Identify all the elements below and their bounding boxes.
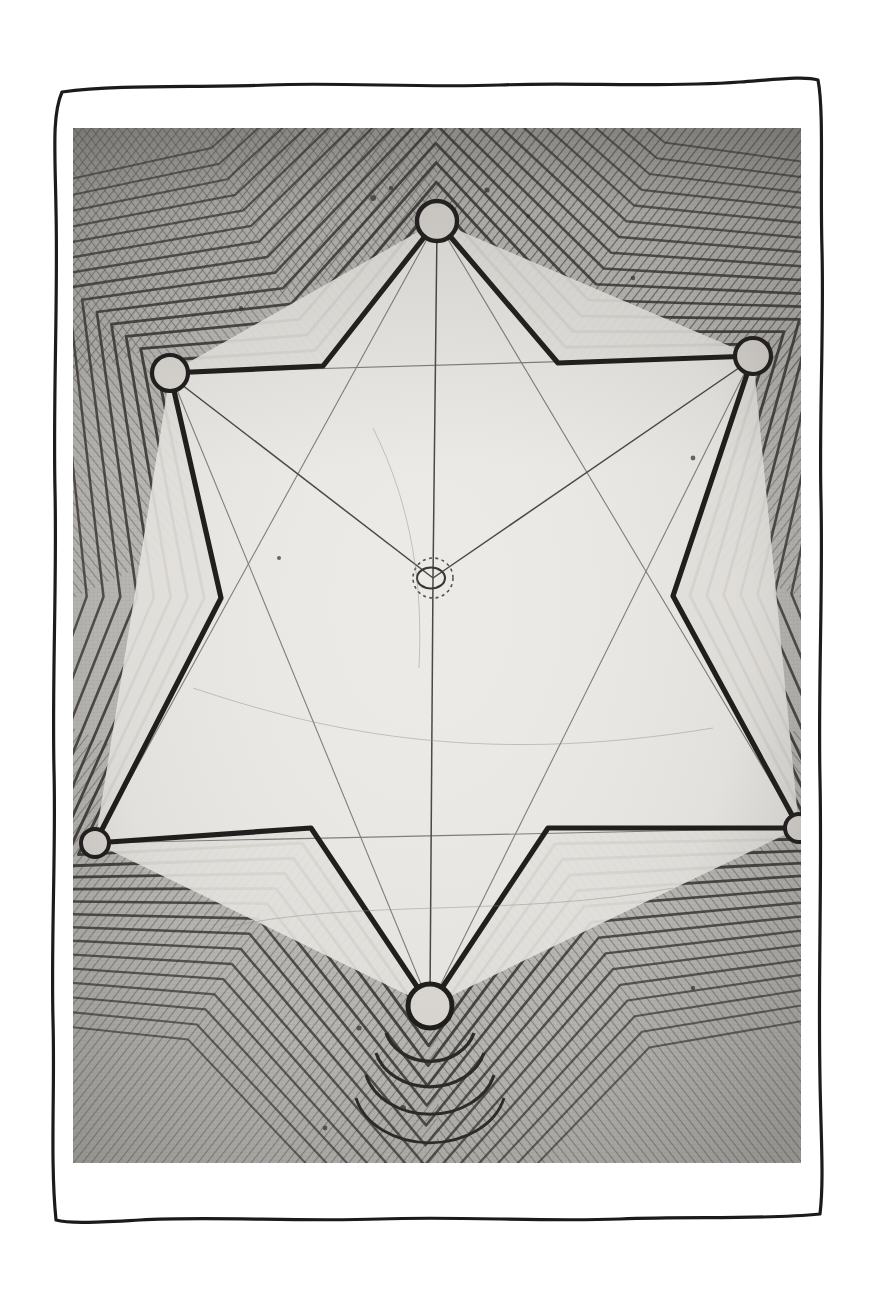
drawing-page bbox=[0, 0, 874, 1294]
top-shadow bbox=[73, 128, 801, 468]
photograph-plate bbox=[73, 128, 801, 1163]
diagram-canvas bbox=[73, 128, 801, 1163]
